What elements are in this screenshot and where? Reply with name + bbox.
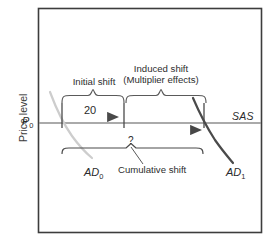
ad0-label: AD0 — [84, 166, 103, 182]
induced-shift-line2: (Multiplier effects) — [119, 75, 203, 86]
sas-label: SAS — [232, 111, 254, 123]
induced-shift-label: Induced shift (Multiplier effects) — [119, 64, 203, 85]
plot-frame — [39, 9, 262, 233]
initial-shift-label: Initial shift — [66, 77, 122, 88]
brace-initial-shift — [62, 90, 124, 104]
ad1-label-text: AD — [226, 166, 241, 178]
ad1-label: AD1 — [226, 166, 245, 182]
initial-shift-value: 20 — [84, 104, 96, 116]
economics-figure: Price level P0 SAS AD0 AD1 Initial shift… — [0, 0, 270, 250]
ad1-label-sub: 1 — [241, 172, 245, 181]
cumulative-shift-value: ? — [128, 135, 134, 146]
bracket-cumulative-shift — [62, 144, 203, 165]
price-level-marker-sub: 0 — [29, 121, 33, 130]
ad0-label-text: AD — [84, 166, 99, 178]
cumulative-shift-label: Cumulative shift — [118, 165, 186, 176]
figure-canvas — [0, 0, 270, 250]
price-level-marker: P0 — [22, 115, 34, 131]
ad0-label-sub: 0 — [99, 172, 103, 181]
